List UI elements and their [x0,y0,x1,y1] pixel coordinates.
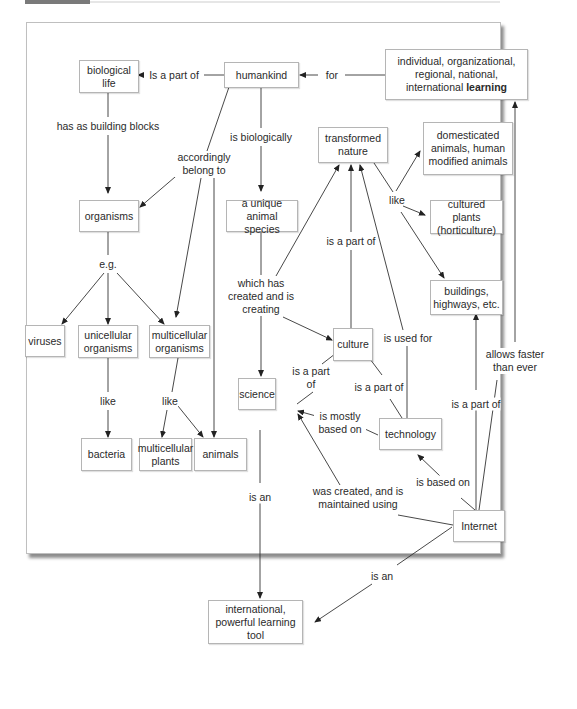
node-technology: technology [379,418,442,450]
link-label-allows-faster: allows faster than ever [484,348,546,374]
node-label: animals [202,448,238,461]
node-learning-tool: international, powerful learning tool [208,600,303,644]
node-biological-life: biological life [79,60,139,93]
link-label-accordingly-belong-to: accordingly belong to [174,151,234,177]
node-label: organisms [85,210,133,223]
link-label-is-used-for: is used for [384,332,432,345]
node-humankind: humankind [224,62,299,88]
node-label: individual, organizational, regional, na… [388,55,525,94]
node-domesticated-animals: domesticated animals, human modified ani… [423,122,513,175]
node-multicellular: multicellular organisms [149,325,210,358]
node-label: multicellular plants [138,442,193,468]
node-buildings: buildings, highways, etc. [430,280,503,315]
node-label: viruses [28,335,61,348]
node-transformed-nature: transformed nature [318,127,388,163]
node-label: unicellular organisms [81,329,135,355]
link-label-eg: e.g. [99,258,117,271]
link-label-is-mostly-based-on: is mostly based on [314,410,366,436]
link-label-internet-is-a-part-of: is a part of [451,398,500,411]
link-label-has-as-building-blocks: has as building blocks [57,120,160,133]
node-label: international, powerful learning tool [211,603,300,642]
link-label-science-is-a-part-of: is a part of [289,365,333,391]
link-label-is-a-part-of: Is a part of [149,69,199,82]
link-label-for: for [326,69,338,82]
node-internet: Internet [453,510,505,542]
node-label: a unique animal species [229,197,295,236]
node-science: science [238,378,276,410]
link-label-science-is-an: is an [249,491,271,504]
node-label: science [239,388,275,401]
link-label-internet-is-an: is an [371,570,393,583]
node-label: buildings, highways, etc. [433,285,500,311]
link-label-is-biologically: is biologically [230,131,292,144]
link-label-is-based-on: is based on [416,476,470,489]
node-label: multicellular organisms [152,329,207,355]
node-label: humankind [236,69,287,82]
link-label-like-nature: like [389,194,405,207]
node-cultured-plants: cultured plants (horticulture) [430,200,503,234]
node-label: Internet [461,520,497,533]
node-unique-species: a unique animal species [226,200,298,232]
link-label-was-created-and-maintained: was created, and is maintained using [310,485,406,511]
node-bacteria: bacteria [81,438,132,471]
node-label: biological life [82,64,136,90]
link-label-technology-is-a-part-of: is a part of [354,381,403,394]
node-label: transformed nature [321,132,385,158]
node-label: cultured plants (horticulture) [433,198,500,237]
link-label-like-unicellular: like [100,395,116,408]
learning-bold-text: learning [466,81,507,93]
node-organisms: organisms [79,200,139,232]
node-animals: animals [194,438,247,471]
node-label: bacteria [88,448,125,461]
node-multicellular-plants: multicellular plants [139,438,192,471]
node-viruses: viruses [25,325,65,357]
link-label-like-multicellular: like [162,395,178,408]
node-culture: culture [333,328,373,361]
link-label-which-has-created: which has created and is creating [226,277,296,316]
link-label-culture-is-a-part-of-nature: is a part of [326,235,375,248]
node-learning: individual, organizational, regional, na… [385,49,528,100]
node-label: domesticated animals, human modified ani… [426,129,510,168]
node-unicellular: unicellular organisms [78,325,138,358]
node-label: culture [337,338,369,351]
node-label: technology [385,428,436,441]
